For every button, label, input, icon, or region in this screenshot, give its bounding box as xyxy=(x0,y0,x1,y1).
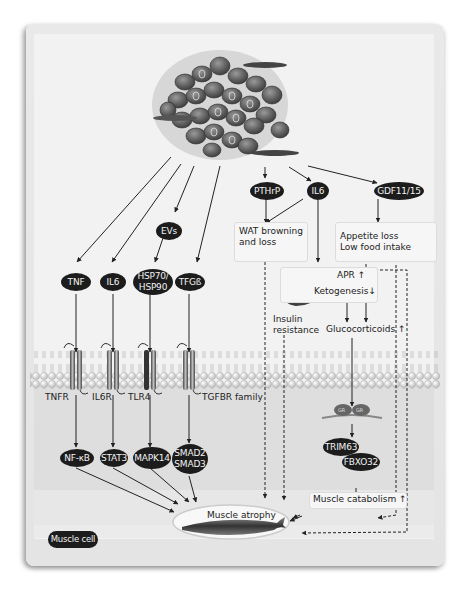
factor-tnf: TNF xyxy=(61,273,91,291)
cell-membrane xyxy=(30,351,440,389)
receptor-tgfbr-label: TGFBR family xyxy=(202,392,263,403)
appetite-label: Appetite lossLow food intake xyxy=(340,231,411,253)
receptor-tlr4-label: TLR4 xyxy=(128,392,151,403)
receptor-il6r-label: IL6R xyxy=(92,392,112,403)
muscle-atrophy-label: Muscle atrophy xyxy=(207,510,276,521)
svg-text:GR: GR xyxy=(338,407,346,413)
node-mapk14: MAPK14 xyxy=(133,447,171,469)
legend-muscle-cell: Muscle cell xyxy=(48,531,98,548)
factor-il6-left: IL6 xyxy=(100,273,126,291)
factor-hsp: HSP70/HSP90 xyxy=(133,269,173,295)
svg-text:GR: GR xyxy=(356,407,364,413)
muscle-catabolism-label: Muscle catabolism ↑ xyxy=(313,494,407,505)
factor-tgfb: TFGß xyxy=(175,273,205,291)
node-fbxo32: FBXO32 xyxy=(342,453,380,471)
factor-pthrp: PTHrP xyxy=(250,182,284,200)
factor-evs: EVs xyxy=(156,222,182,240)
factor-il6-right: IL6 xyxy=(307,182,329,200)
ketogenesis-label: Ketogenesis↓ xyxy=(314,286,376,297)
factor-gdf: GDF11/15 xyxy=(374,182,424,200)
node-smad: SMAD2SMAD3 xyxy=(172,444,208,474)
node-stat3: STAT3 xyxy=(100,449,128,467)
glucocorticoids-label: Glucocorticoids ↑ xyxy=(326,324,406,335)
insulin-resistance-label: Insulinresistance xyxy=(273,314,319,336)
node-nfkb: NF-κB xyxy=(60,449,94,467)
receptor-tnfr-label: TNFR xyxy=(45,392,69,403)
wat-label: WAT browningand loss xyxy=(239,226,303,248)
apr-label: APR ↑ xyxy=(337,270,365,281)
